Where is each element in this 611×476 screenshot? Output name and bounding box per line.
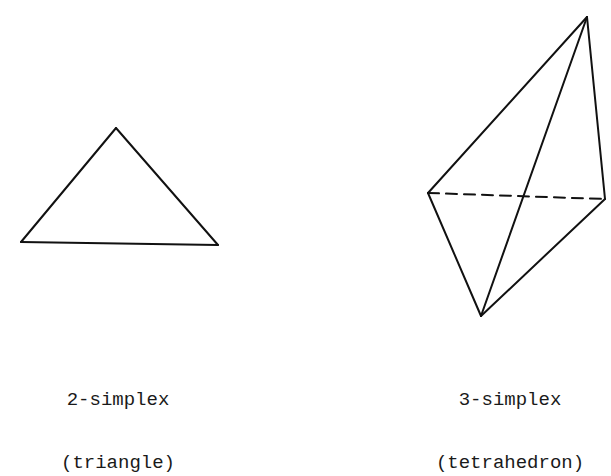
- tetrahedron-edge-visible: [587, 17, 605, 199]
- triangle-edge-visible: [21, 242, 218, 245]
- tetrahedron-edge-visible: [481, 199, 605, 316]
- tetrahedron-caption-subtitle: (tetrahedron): [410, 453, 610, 474]
- tetrahedron-edge-visible: [428, 17, 587, 193]
- triangle-edge-visible: [21, 128, 116, 242]
- triangle-caption: 2-simplex (triangle): [28, 348, 208, 476]
- triangle-2-simplex: [21, 128, 218, 245]
- tetrahedron-edge-hidden: [428, 193, 605, 199]
- triangle-caption-title: 2-simplex: [28, 390, 208, 411]
- tetrahedron-3-simplex: [428, 17, 605, 316]
- tetrahedron-caption-title: 3-simplex: [410, 390, 610, 411]
- tetrahedron-caption: 3-simplex (tetrahedron): [410, 348, 610, 476]
- tetrahedron-edge-visible: [481, 17, 587, 316]
- triangle-caption-subtitle: (triangle): [28, 453, 208, 474]
- triangle-edge-visible: [116, 128, 218, 245]
- tetrahedron-edge-visible: [428, 193, 481, 316]
